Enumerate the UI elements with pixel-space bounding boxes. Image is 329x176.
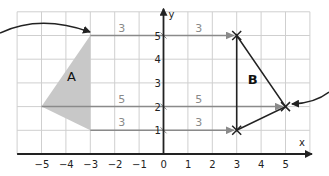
y-tick-label: 2 xyxy=(155,102,161,113)
x-tick-label: 5 xyxy=(283,159,289,170)
distance-label-top-right: 3 xyxy=(195,22,202,35)
x-tick-label: −2 xyxy=(108,159,123,170)
diagram-canvas: x y −5−4−3−2−1012345 12345 3 3 5 5 3 3 A… xyxy=(0,0,329,176)
curved-pointer-arrow-left xyxy=(0,23,90,33)
distance-label-bot-right: 3 xyxy=(195,116,202,129)
x-tick-label: 4 xyxy=(258,159,264,170)
coordinate-diagram: x y −5−4−3−2−1012345 12345 3 3 5 5 3 3 A… xyxy=(0,0,329,176)
distance-label-top-left: 3 xyxy=(118,22,125,35)
x-tick-label: −3 xyxy=(83,159,98,170)
x-tick-label: −1 xyxy=(132,159,147,170)
x-tick-label: −4 xyxy=(59,159,74,170)
y-tick-label: 1 xyxy=(155,125,161,136)
distance-label-mid-left: 5 xyxy=(118,93,125,106)
distance-label-bot-left: 3 xyxy=(118,116,125,129)
x-tick-label: −5 xyxy=(35,159,50,170)
x-axis-label: x xyxy=(299,137,305,148)
distance-label-mid-right: 5 xyxy=(195,93,202,106)
y-tick-label: 3 xyxy=(155,78,161,89)
x-tick-label: 3 xyxy=(234,159,240,170)
x-tick-label: 0 xyxy=(161,159,167,170)
y-tick-labels: 12345 xyxy=(155,31,161,137)
x-tick-labels: −5−4−3−2−1012345 xyxy=(35,159,289,170)
x-tick-label: 2 xyxy=(209,159,215,170)
y-axis-label: y xyxy=(168,9,174,20)
curved-pointer-arrow-right xyxy=(292,92,329,104)
shape-b-label: B xyxy=(248,72,258,87)
y-tick-label: 4 xyxy=(155,54,161,65)
x-tick-label: 1 xyxy=(185,159,191,170)
shape-a-label: A xyxy=(67,69,76,84)
y-tick-label: 5 xyxy=(155,31,161,42)
